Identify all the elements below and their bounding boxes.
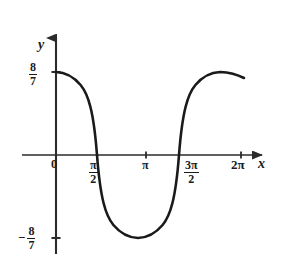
fraction-numerator: π <box>89 159 98 171</box>
x-tick-label-3pi-over-2: 3π 2 <box>184 159 199 185</box>
fraction-pi-over-2: π 2 <box>89 159 98 185</box>
fraction-numerator: 3π <box>184 159 199 171</box>
fraction-numerator: 8 <box>27 225 35 237</box>
fraction-3pi-over-2: 3π 2 <box>184 159 199 185</box>
fraction-numerator: 8 <box>29 61 37 73</box>
fraction-denominator: 2 <box>89 173 98 185</box>
x-axis-label: x <box>258 157 265 171</box>
fraction-denominator: 7 <box>29 75 37 87</box>
x-tick-label-origin: 0 <box>51 158 57 170</box>
fraction-8-over-7-negative: 8 7 <box>27 225 35 251</box>
cosine-graph-figure: ) y x 8 7 − 8 7 0 π 2 π 3π 2 <box>0 0 283 261</box>
x-tick-label-2pi: 2π <box>231 158 245 171</box>
fraction-8-over-7: 8 7 <box>29 61 37 87</box>
y-axis-label: y <box>38 38 44 52</box>
x-tick-label-pi-over-2: π 2 <box>89 159 98 185</box>
y-tick-label-positive: 8 7 <box>29 61 37 87</box>
x-tick-label-pi: π <box>142 159 149 171</box>
minus-sign: − <box>18 231 25 244</box>
fraction-denominator: 2 <box>184 173 199 185</box>
fraction-denominator: 7 <box>27 239 35 251</box>
y-tick-label-negative: − 8 7 <box>18 225 35 251</box>
